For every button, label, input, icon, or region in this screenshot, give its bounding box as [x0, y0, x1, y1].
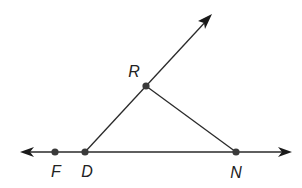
geometry-diagram: R F D N [0, 0, 302, 188]
point-f [51, 148, 58, 155]
label-n: N [230, 164, 242, 181]
point-r [142, 82, 149, 89]
point-d [81, 148, 88, 155]
label-r: R [128, 63, 140, 80]
point-n [232, 148, 239, 155]
label-f: F [51, 163, 62, 180]
label-d: D [81, 163, 93, 180]
segment-rn [146, 86, 236, 152]
